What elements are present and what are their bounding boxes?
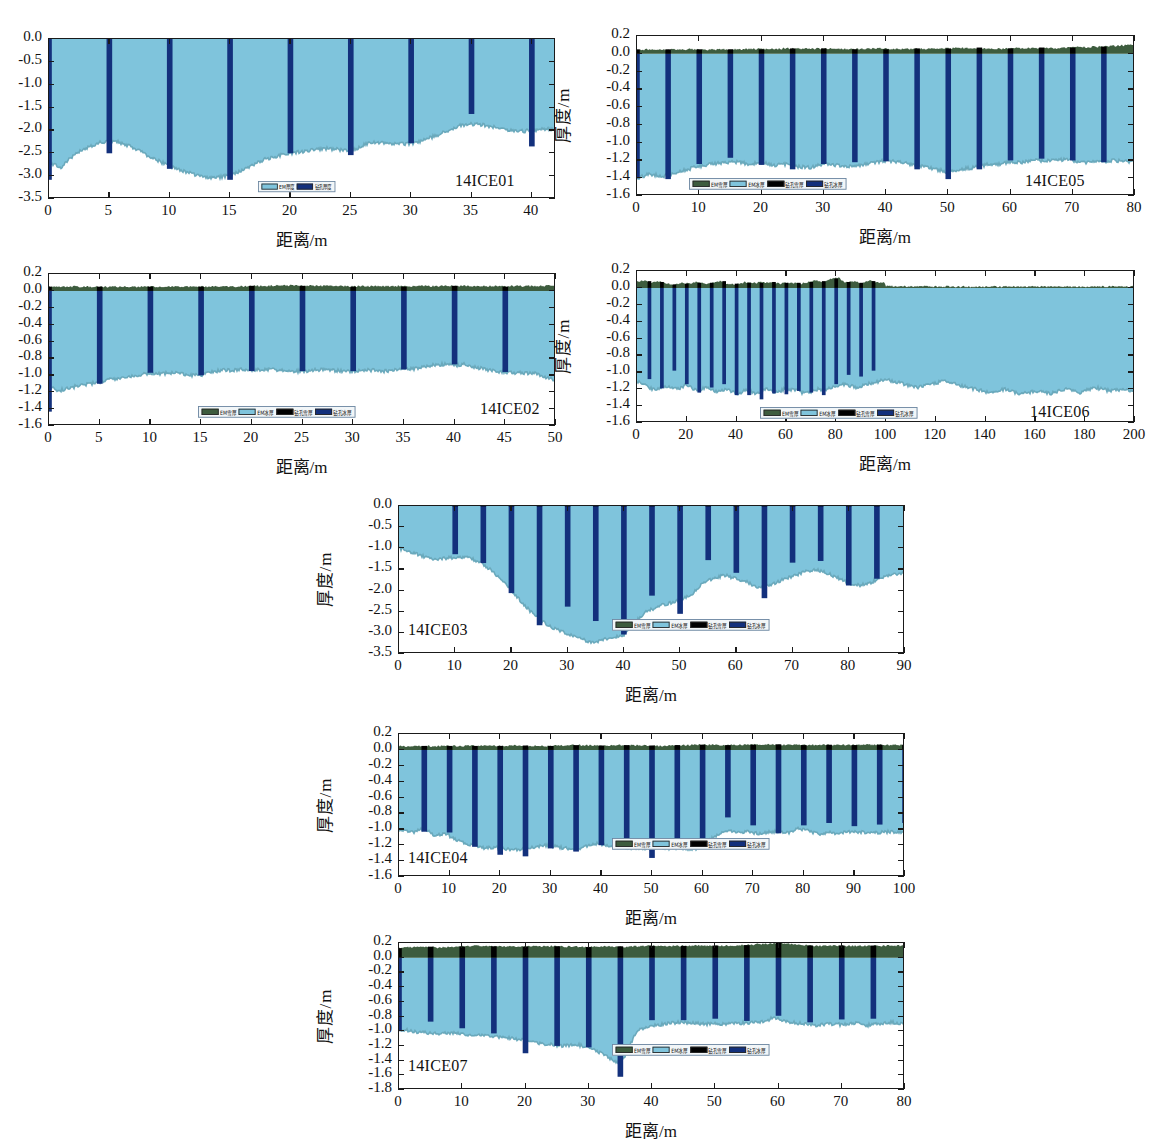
legend-swatch xyxy=(690,840,707,847)
borehole-snow-bar xyxy=(618,946,624,957)
y-tick-mark xyxy=(398,1089,404,1090)
borehole-snow-bar xyxy=(744,945,750,957)
legend-swatch xyxy=(653,1046,670,1053)
y-tick-mark xyxy=(398,1074,404,1075)
legend-swatch xyxy=(729,840,746,847)
legend-item: 钻孔雪厚 xyxy=(838,409,874,416)
legend-item: 钻孔冰厚 xyxy=(315,408,351,415)
legend-label: 钻孔雪厚 xyxy=(708,621,726,629)
legend-label: EM冰厚 xyxy=(671,621,687,629)
legend-swatch xyxy=(202,408,219,415)
y-tick-mark xyxy=(398,1045,404,1046)
borehole-snow-bar xyxy=(459,947,465,958)
legend-14ICE06: EM雪厚EM冰厚钻孔雪厚钻孔冰厚 xyxy=(760,407,917,419)
borehole-ice-bar xyxy=(649,958,655,1020)
plot-area-14ICE07 xyxy=(398,942,904,1089)
legend-item: 钻孔冰厚 xyxy=(729,1046,765,1053)
legend-14ICE07: EM雪厚EM冰厚钻孔雪厚钻孔冰厚 xyxy=(612,1044,769,1056)
legend-label: 钻孔雪厚 xyxy=(294,408,312,416)
y-tick-mark-right xyxy=(898,957,904,958)
legend-item: 钻孔雪厚 xyxy=(767,180,803,187)
x-tick-label: 30 xyxy=(558,1093,618,1110)
x-tick-mark-top xyxy=(904,942,905,948)
legend-14ICE05: EM雪厚EM冰厚钻孔雪厚钻孔冰厚 xyxy=(689,178,846,190)
y-tick-mark xyxy=(398,1001,404,1002)
legend-swatch xyxy=(690,621,707,628)
panel-14ICE07: 0.20.0-0.2-0.4-0.6-0.8-1.0-1.2-1.4-1.6-1… xyxy=(0,0,1168,1140)
legend-item: EM冰厚 xyxy=(653,1046,687,1053)
legend-14ICE04: EM雪厚EM冰厚钻孔雪厚钻孔冰厚 xyxy=(612,838,769,850)
borehole-ice-bar xyxy=(586,958,592,1048)
legend-item: EM冰厚 xyxy=(239,408,273,415)
legend-swatch xyxy=(806,180,823,187)
borehole-snow-bar xyxy=(523,947,529,958)
legend-item: EM雪厚 xyxy=(616,621,650,628)
legend-swatch xyxy=(616,840,633,847)
x-tick-mark-top xyxy=(525,942,526,948)
y-tick-mark-right xyxy=(898,971,904,972)
legend-item: EM冰厚 xyxy=(801,409,835,416)
legend-item: 钻孔冰厚 xyxy=(729,621,765,628)
legend-label: 钻孔冰厚 xyxy=(747,621,765,629)
legend-label: EM雪厚 xyxy=(782,409,798,417)
y-tick-mark-right xyxy=(898,1030,904,1031)
legend-swatch xyxy=(801,409,818,416)
legend-swatch xyxy=(239,408,256,415)
legend-swatch xyxy=(616,621,633,628)
legend-item: EM雪厚 xyxy=(616,840,650,847)
x-tick-mark-top xyxy=(714,942,715,948)
legend-label: EM冰厚 xyxy=(671,840,687,848)
legend-swatch xyxy=(653,621,670,628)
legend-item: EM冰厚 xyxy=(730,180,764,187)
x-tick-label: 50 xyxy=(684,1093,744,1110)
y-tick-mark-right xyxy=(898,1016,904,1017)
borehole-ice-bar xyxy=(744,958,750,1021)
borehole-ice-bar xyxy=(712,958,718,1019)
y-tick-mark xyxy=(398,957,404,958)
borehole-snow-bar xyxy=(681,946,687,958)
x-tick-mark xyxy=(841,1083,842,1089)
legend-label: 钻孔冰厚 xyxy=(824,180,842,188)
borehole-snow-bar xyxy=(491,946,497,957)
borehole-snow-bar xyxy=(807,946,813,958)
legend-swatch xyxy=(729,621,746,628)
borehole-ice-bar xyxy=(776,958,782,1016)
legend-item: 钻孔雪厚 xyxy=(276,408,312,415)
legend-14ICE03: EM雪厚EM冰厚钻孔雪厚钻孔冰厚 xyxy=(612,619,769,631)
x-tick-label: 10 xyxy=(431,1093,491,1110)
x-tick-label: 60 xyxy=(748,1093,808,1110)
legend-swatch xyxy=(693,180,710,187)
legend-item: EM雪厚 xyxy=(693,180,727,187)
legend-label: EM冰厚 xyxy=(748,180,764,188)
series-canvas-14ICE07 xyxy=(399,943,904,1089)
panel-title-14ICE07: 14ICE07 xyxy=(408,1057,468,1075)
legend-label: EM雪厚 xyxy=(634,621,650,629)
x-tick-label: 80 xyxy=(874,1093,934,1110)
legend-item: EM厚度 xyxy=(261,183,294,189)
legend-item: EM冰厚 xyxy=(653,621,687,628)
legend-swatch xyxy=(261,183,277,189)
legend-label: 钻孔冰厚 xyxy=(333,408,351,416)
legend-label: 钻孔冰厚 xyxy=(747,840,765,848)
borehole-ice-bar xyxy=(681,958,687,1020)
x-tick-mark-top xyxy=(398,942,399,948)
legend-label: 钻孔雪厚 xyxy=(785,180,803,188)
legend-label: 钻孔雪厚 xyxy=(708,840,726,848)
y-tick-mark xyxy=(398,1060,404,1061)
legend-label: EM雪厚 xyxy=(634,840,650,848)
legend-swatch xyxy=(315,408,332,415)
legend-item: EM冰厚 xyxy=(653,840,687,847)
borehole-ice-bar xyxy=(554,958,560,1046)
y-tick-mark xyxy=(398,1016,404,1017)
legend-item: 钻孔冰厚 xyxy=(877,409,913,416)
borehole-snow-bar xyxy=(586,947,592,958)
borehole-ice-bar xyxy=(839,958,845,1020)
legend-label: EM雪厚 xyxy=(220,408,236,416)
x-tick-mark xyxy=(714,1083,715,1089)
legend-swatch xyxy=(297,183,313,189)
borehole-ice-bar xyxy=(618,958,624,1077)
legend-item: 钻孔冰厚 xyxy=(729,840,765,847)
y-tick-mark-right xyxy=(898,1060,904,1061)
legend-label: 钻孔雪厚 xyxy=(708,1046,726,1054)
legend-label: EM冰厚 xyxy=(819,409,835,417)
